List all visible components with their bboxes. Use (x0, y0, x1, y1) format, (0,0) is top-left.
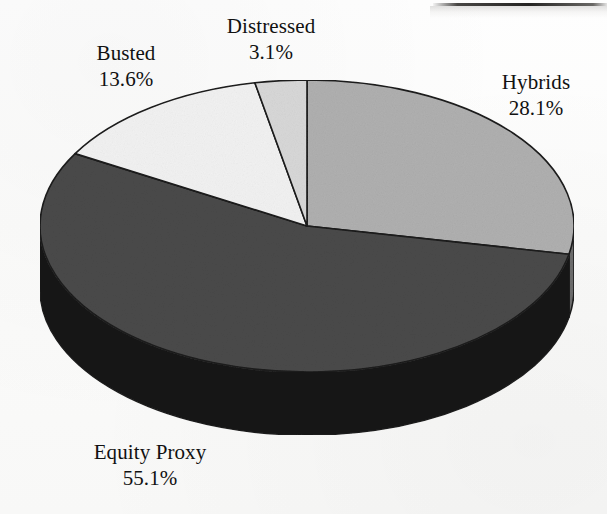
slice-label-equity-proxy: Equity Proxy 55.1% (44, 440, 256, 491)
slice-label-distressed-value: 3.1% (196, 40, 346, 66)
slice-label-equity-proxy-value: 55.1% (44, 466, 256, 492)
slice-label-hybrids: Hybrids 28.1% (470, 70, 602, 121)
slice-label-busted-name: Busted (58, 41, 194, 67)
slice-label-equity-proxy-name: Equity Proxy (44, 440, 256, 466)
pie-top-surface (40, 80, 574, 372)
slice-label-busted-value: 13.6% (58, 67, 194, 93)
slice-label-distressed-name: Distressed (196, 14, 346, 40)
slice-label-hybrids-value: 28.1% (470, 96, 602, 122)
slice-label-distressed: Distressed 3.1% (196, 14, 346, 65)
slice-label-hybrids-name: Hybrids (470, 70, 602, 96)
slice-label-busted: Busted 13.6% (58, 41, 194, 92)
pie-chart-figure: Distressed 3.1% Busted 13.6% Hybrids 28.… (0, 0, 607, 514)
